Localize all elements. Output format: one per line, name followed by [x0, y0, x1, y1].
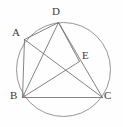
vertex-label-e: E	[82, 50, 89, 61]
vertex-label-b: B	[10, 90, 17, 101]
vertex-label-a: A	[12, 27, 20, 38]
segment-AD	[25, 23, 59, 40]
segment-DE	[59, 23, 80, 62]
geometry-figure: A D E B C	[0, 0, 123, 127]
vertex-label-c: C	[104, 90, 111, 101]
geometry-canvas	[0, 0, 123, 127]
segment-layer	[23, 23, 103, 98]
segment-AB	[23, 40, 25, 98]
vertex-label-d: D	[52, 6, 60, 17]
segment-DC	[59, 23, 103, 98]
